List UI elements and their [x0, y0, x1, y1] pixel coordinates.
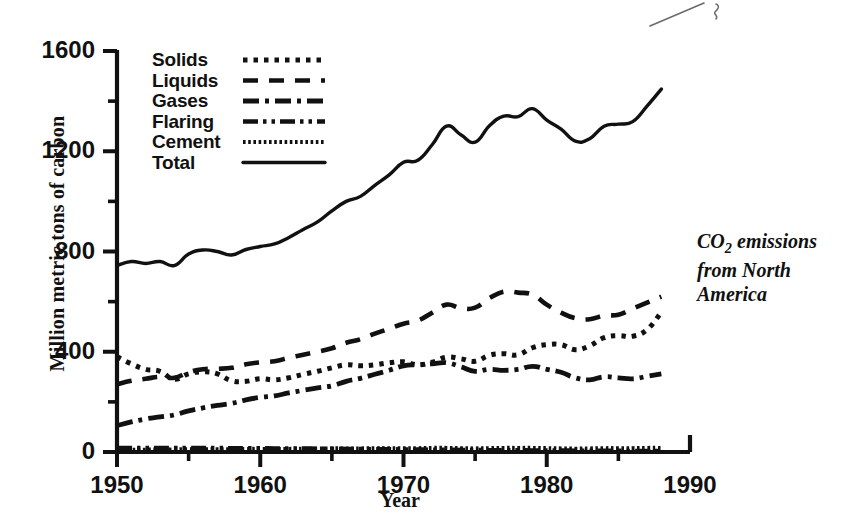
y-tick-label: 800 — [0, 237, 95, 265]
legend-label-solids: Solids — [152, 49, 208, 71]
legend-line-samples — [243, 60, 325, 163]
chart-annotation: CO2 emissions from North America — [697, 229, 860, 306]
legend-label-gases: Gases — [152, 90, 208, 112]
x-tick-label: 1970 — [354, 471, 454, 499]
annotation-line-1: CO2 emissions — [697, 230, 817, 252]
annotation-line-2: from North — [697, 259, 791, 281]
legend-label-liquids: Liquids — [152, 70, 218, 92]
legend-label-flaring: Flaring — [152, 111, 214, 133]
legend-label-cement: Cement — [152, 131, 220, 153]
y-tick-label: 0 — [0, 437, 95, 465]
x-tick-label: 1950 — [67, 471, 167, 499]
chart-figure: Million metric tons of carbon Year 04008… — [0, 0, 860, 527]
x-tick-label: 1980 — [497, 471, 597, 499]
y-tick-label: 1600 — [0, 36, 95, 64]
x-tick-label: 1990 — [640, 471, 740, 499]
annotation-line-3: America — [697, 283, 767, 305]
y-tick-label: 1200 — [0, 136, 95, 164]
x-tick-label: 1960 — [210, 471, 310, 499]
y-tick-label: 400 — [0, 337, 95, 365]
legend-label-total: Total — [152, 152, 195, 174]
scan-artifact-mark — [648, 0, 768, 40]
